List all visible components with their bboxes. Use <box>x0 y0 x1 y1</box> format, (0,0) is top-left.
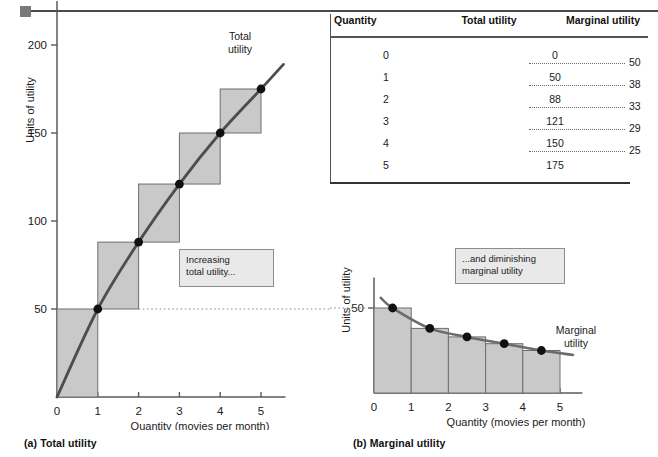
header-total-utility: Total utility <box>435 14 543 32</box>
cell-quantity: 3 <box>330 110 500 132</box>
cell-total-utility: 50 <box>500 66 648 88</box>
cell-quantity: 5 <box>330 154 500 176</box>
cell-total-utility: 121 <box>500 110 648 132</box>
y-tick-label: 50 <box>351 302 364 314</box>
table-row: 4150 <box>330 132 648 154</box>
marginal-utility-bar <box>448 337 485 393</box>
x-tick-label: 3 <box>482 401 488 413</box>
cell-quantity: 2 <box>330 88 500 110</box>
data-point-marker <box>537 346 546 355</box>
data-point-marker <box>388 304 397 313</box>
header-marginal-utility: Marginal utility <box>543 14 648 32</box>
figure-root: 50100150200012345Units of utilityQuantit… <box>0 0 658 457</box>
callout-diminishing-marginal-utility: ...and diminishing marginal utility <box>455 248 565 284</box>
curve-label-marginal-line2: utility <box>564 337 589 349</box>
table-row: 3121 <box>330 110 648 132</box>
x-tick-label: 4 <box>520 401 527 413</box>
data-point-marker <box>463 333 472 342</box>
cell-quantity: 1 <box>330 66 500 88</box>
marginal-utility-bar <box>523 351 560 394</box>
x-tick-label: 5 <box>557 401 563 413</box>
x-axis-title: Quantity (movies per month) <box>447 416 586 428</box>
panel-b-caption: (b) Marginal utility <box>353 437 445 449</box>
table-row: 150 <box>330 66 648 88</box>
table-row: 00 <box>330 44 648 66</box>
x-tick-label: 1 <box>408 401 414 413</box>
marginal-utility-bar <box>411 328 448 393</box>
table-row: 5175 <box>330 154 648 176</box>
table-footer-rule <box>330 182 630 184</box>
cell-total-utility: 150 <box>500 132 648 154</box>
x-tick-label: 2 <box>445 401 451 413</box>
table-row: 288 <box>330 88 648 110</box>
y-axis-title: Units of utility <box>340 267 352 333</box>
marginal-utility-bar <box>374 308 411 393</box>
data-point-marker <box>500 339 509 348</box>
marginal-utility-bar <box>486 344 523 393</box>
cell-total-utility: 88 <box>500 88 648 110</box>
cell-quantity: 4 <box>330 132 500 154</box>
data-point-marker <box>425 324 434 333</box>
curve-label-marginal: Marginal <box>556 324 596 336</box>
cell-quantity: 0 <box>330 44 500 66</box>
utility-table: Quantity Total utility Marginal utility … <box>330 14 648 176</box>
table-body-wrapper: 00150288312141505175 5038332925 <box>330 44 648 176</box>
cell-total-utility: 0 <box>500 44 648 66</box>
x-tick-label: 0 <box>371 401 377 413</box>
table-header-rule <box>330 36 648 38</box>
panel-a-caption: (a) Total utility <box>24 437 97 449</box>
header-quantity: Quantity <box>330 14 435 32</box>
cell-total-utility: 175 <box>500 154 648 176</box>
table-header-row: Quantity Total utility Marginal utility <box>330 14 648 32</box>
